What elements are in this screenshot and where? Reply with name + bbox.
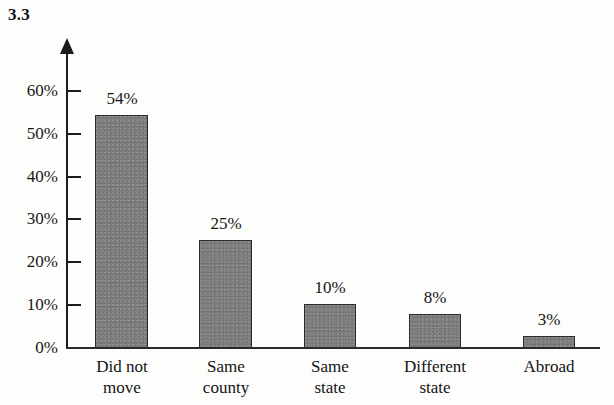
category-label-line1: Same [207,357,245,376]
bar-different-state [409,314,461,348]
y-tick-mark [68,261,81,263]
y-tick-label: 50% [0,125,58,142]
category-label-line1: Did not [96,357,147,376]
category-label-line1: Different [404,357,466,376]
bar-value-label: 25% [190,215,262,232]
category-label-line2: state [379,377,491,398]
y-tick-mark [68,218,81,220]
category-label-line1: Abroad [524,357,575,376]
category-label-did-not-move: Did not move [66,356,178,398]
y-axis-arrow-icon [60,38,74,54]
category-label-line1: Same [311,357,349,376]
y-tick-mark [68,304,81,306]
y-tick-label: 10% [0,296,58,313]
category-label-different-state: Different state [379,356,491,398]
bar-same-county [199,240,252,348]
y-tick-label: 60% [0,82,58,99]
category-label-line2: state [274,377,386,398]
y-tick-mark [68,176,81,178]
y-tick-label: 30% [0,210,58,227]
category-label-same-county: Same county [170,356,282,398]
y-tick-label: 40% [0,168,58,185]
bar-chart-plot-area: 60% 50% 40% 30% 20% 10% 0% 54% 25% 10% 8… [0,0,614,405]
chart-page: 3.3 60% 50% 40% 30% 20% 10% 0% 54% 25% 1… [0,0,614,405]
category-label-line2: move [66,377,178,398]
bar-value-label: 54% [86,90,158,107]
bar-value-label: 10% [294,279,366,296]
bar-same-state [304,304,356,348]
bar-value-label: 3% [513,311,585,328]
y-tick-mark [68,90,81,92]
y-tick-label: 0% [0,339,58,356]
bar-value-label: 8% [399,289,471,306]
category-label-abroad: Abroad [493,356,605,377]
y-tick-label: 20% [0,253,58,270]
bar-abroad [523,336,575,348]
bar-did-not-move [95,115,148,348]
category-label-same-state: Same state [274,356,386,398]
y-tick-mark [68,133,81,135]
category-label-line2: county [170,377,282,398]
